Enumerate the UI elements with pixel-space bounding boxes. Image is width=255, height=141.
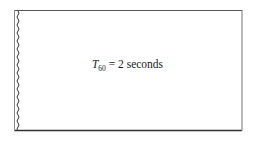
reverb-room-diagram: T60 = 2 seconds xyxy=(0,0,255,141)
reverb-time-label: T60 = 2 seconds xyxy=(0,58,255,73)
reverb-unit: seconds xyxy=(127,58,163,70)
t-subscript: 60 xyxy=(98,64,106,73)
reverb-value: 2 xyxy=(118,58,124,70)
equals-sign: = xyxy=(106,58,118,70)
